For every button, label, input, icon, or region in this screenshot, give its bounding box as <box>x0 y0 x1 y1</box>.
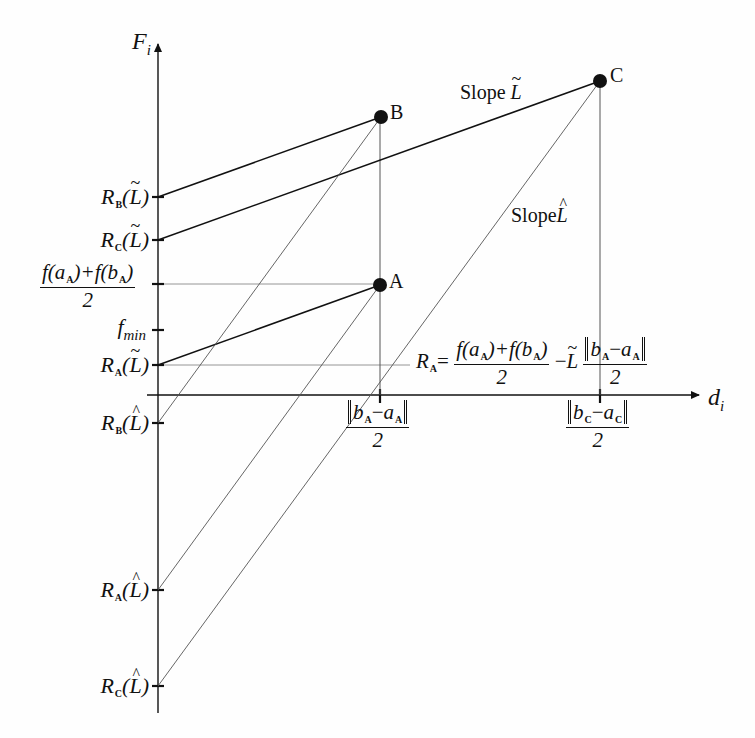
tick-label-dist-c: bC−aC 2 <box>566 402 629 451</box>
point-b-marker <box>374 110 388 124</box>
slope-tilde-line-b <box>158 117 381 197</box>
diagram-canvas: Fi di B A C Slope L SlopeL RB(L) RC(L) f… <box>0 0 755 738</box>
point-a-label: A <box>389 271 403 291</box>
x-axis-label: di <box>708 385 724 414</box>
slope-tilde-line-a <box>158 285 380 365</box>
point-a-marker <box>373 278 387 292</box>
tick-label-f-min: fmin <box>117 316 146 343</box>
l-hat-symbol: L <box>557 205 568 225</box>
ra-equation: RA= f(aA)+f(bA) 2 −L bA−aA 2 <box>416 339 647 388</box>
tick-label-rc-hat: RC(L) <box>100 675 149 699</box>
tick-label-ra-tilde: RA(L) <box>100 354 149 378</box>
y-axis-label: Fi <box>132 29 151 58</box>
l-tilde-symbol: L <box>511 82 522 102</box>
tick-label-dist-a: bA−aA 2 <box>346 402 409 451</box>
slope-tilde-label: Slope L <box>460 82 522 102</box>
slope-hat-line-b <box>158 117 381 423</box>
tick-label-rc-tilde: RC(L) <box>100 229 149 253</box>
point-c-label: C <box>610 65 623 85</box>
tick-label-ra-hat: RA(L) <box>100 579 149 603</box>
tick-label-f-avg: f(aA)+f(bA) 2 <box>40 262 135 311</box>
point-c-marker <box>593 74 607 88</box>
x-ticks <box>380 389 600 403</box>
tick-label-rb-tilde: RB(L) <box>101 186 149 210</box>
slope-hat-label: SlopeL <box>511 205 568 225</box>
point-b-label: B <box>390 102 403 122</box>
tick-label-rb-hat: RB(L) <box>101 412 149 436</box>
